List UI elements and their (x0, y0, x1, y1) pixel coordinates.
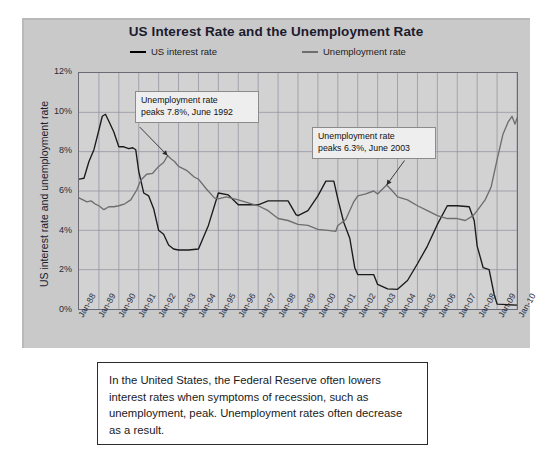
x-axis-tick-label: Jan-94 (196, 291, 218, 319)
x-axis-tick-label: Jan-02 (356, 291, 378, 319)
annotation-2-line2: peaks 6.3%, June 2003 (318, 143, 430, 155)
x-axis-tick-label: Jan-92 (156, 291, 178, 319)
x-axis-tick-label: Jan-04 (396, 291, 418, 319)
annotation-2-line1: Unemployment rate (318, 131, 430, 143)
x-axis-tick-label: Jan-06 (436, 291, 458, 319)
x-axis-tick-label: Jan-91 (136, 291, 158, 319)
x-axis-tick-label: Jan-97 (256, 291, 278, 319)
x-axis-tick-labels: Jan-88Jan-89Jan-90Jan-91Jan-92Jan-93Jan-… (22, 18, 530, 348)
caption-box: In the United States, the Federal Reserv… (97, 362, 428, 445)
annotation-1-line2: peaks 7.8%, June 1992 (141, 107, 253, 119)
caption-text: In the United States, the Federal Reserv… (109, 374, 402, 436)
x-axis-tick-label: Jan-10 (516, 291, 538, 319)
x-axis-tick-label: Jan-07 (456, 291, 478, 319)
x-axis-tick-label: Jan-88 (76, 291, 98, 319)
chart-panel: US Interest Rate and the Unemployment Ra… (22, 18, 530, 348)
annotation-1-line1: Unemployment rate (141, 95, 253, 107)
x-axis-tick-label: Jan-89 (96, 291, 118, 319)
annotation-callout-2003: Unemployment rate peaks 6.3%, June 2003 (312, 127, 436, 159)
x-axis-tick-label: Jan-90 (116, 291, 138, 319)
x-axis-tick-label: Jan-05 (416, 291, 438, 319)
x-axis-tick-label: Jan-99 (296, 291, 318, 319)
x-axis-tick-label: Jan-08 (476, 291, 498, 319)
x-axis-tick-label: Jan-93 (176, 291, 198, 319)
x-axis-tick-label: Jan-03 (376, 291, 398, 319)
x-axis-tick-label: Jan-00 (316, 291, 338, 319)
x-axis-tick-label: Jan-96 (236, 291, 258, 319)
x-axis-tick-label: Jan-95 (216, 291, 238, 319)
x-axis-tick-label: Jan-09 (496, 291, 518, 319)
x-axis-tick-label: Jan-01 (336, 291, 358, 319)
annotation-callout-1992: Unemployment rate peaks 7.8%, June 1992 (135, 91, 259, 123)
x-axis-tick-label: Jan-98 (276, 291, 298, 319)
